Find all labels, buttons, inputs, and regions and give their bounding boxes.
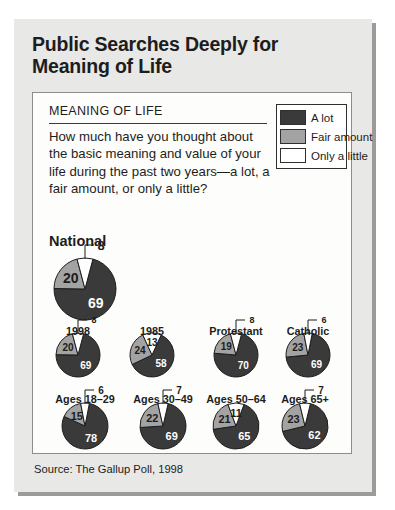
pie-slice-label: 11 [230, 407, 242, 419]
pie-slice-label: 13 [146, 337, 158, 348]
pie-slice-label: 58 [156, 358, 168, 369]
pie-slice-label: 69 [166, 430, 178, 442]
pie-caption: Catholic [287, 325, 330, 337]
pie-slice-label: 15 [71, 410, 83, 422]
pie-slice-label: 8 [91, 315, 96, 325]
source-note: Source: The Gallup Poll, 1998 [34, 463, 183, 475]
legend-swatch-a-lot [280, 110, 306, 125]
pie-caption: Ages 65+ [281, 393, 329, 405]
pie-slice-label: 23 [287, 413, 299, 425]
legend-item-fair-amount: Fair amount [280, 127, 343, 146]
pie-chart-ages-65: 62237Ages 65+ [256, 377, 354, 475]
page-title: Public Searches Deeply for Meaning of Li… [32, 33, 342, 77]
legend-label-fair-amount: Fair amount [311, 131, 372, 143]
legend-swatch-only-a-little [280, 148, 306, 163]
pie-slice-label: 19 [221, 341, 233, 352]
legend-label-only-a-little: Only a little [311, 150, 368, 162]
pie-slice-label: 8 [97, 238, 104, 253]
pie-slice-label: 20 [62, 342, 74, 353]
pie-slice-label: 62 [308, 429, 320, 441]
pie-slice-label: 6 [321, 315, 326, 325]
pie-caption: Ages 18–29 [55, 393, 114, 405]
pie-caption: 1998 [66, 325, 90, 337]
pie-slice-label: 24 [134, 345, 146, 356]
legend-item-only-a-little: Only a little [280, 146, 343, 165]
legend: A lot Fair amount Only a little [276, 104, 347, 169]
pie-caption: Ages 30–49 [133, 393, 192, 405]
pie-slice-label: 22 [146, 412, 158, 424]
pie-slice-label: 69 [311, 359, 323, 370]
pie-slice-label: 78 [85, 432, 97, 444]
pie-slice-label: 20 [63, 270, 79, 286]
pie-slice-label: 21 [218, 413, 230, 425]
question-text: How much have you thought about the basi… [49, 128, 271, 198]
legend-item-a-lot: A lot [280, 108, 343, 127]
pie-slice-label: 23 [292, 342, 304, 353]
legend-label-a-lot: A lot [311, 112, 333, 124]
pie-caption: 1985 [140, 325, 164, 337]
poll-infographic-page: Public Searches Deeply for Meaning of Li… [14, 19, 372, 492]
pie-slice-label: 69 [80, 360, 92, 371]
divider [49, 123, 267, 124]
pie-caption: Protestant [209, 325, 262, 337]
legend-swatch-fair-amount [280, 129, 306, 144]
chart-panel: MEANING OF LIFE How much have you though… [32, 92, 352, 454]
question-heading: MEANING OF LIFE [49, 104, 163, 118]
pie-slice-label: 8 [249, 315, 254, 325]
leader-line [85, 245, 94, 259]
pie-slice-label: 65 [238, 430, 250, 442]
pie-slice-label: 70 [238, 360, 250, 371]
